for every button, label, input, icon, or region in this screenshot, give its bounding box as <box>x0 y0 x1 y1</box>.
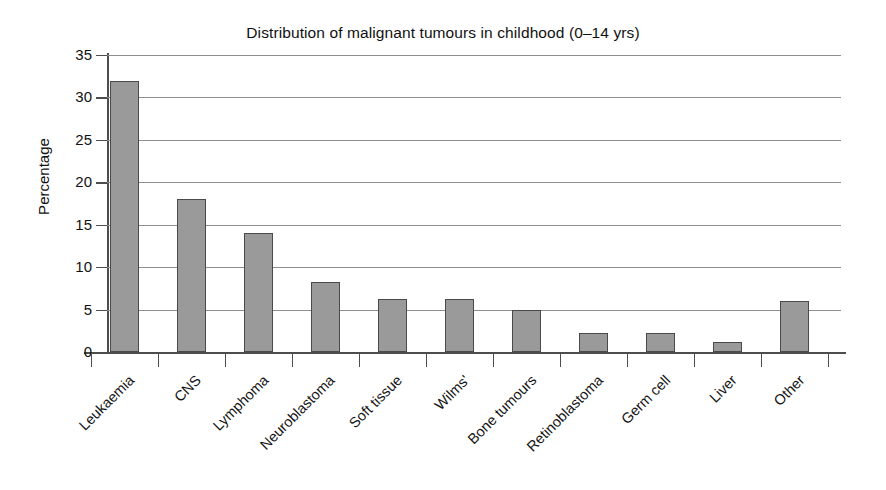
bar[interactable] <box>512 310 541 352</box>
bar[interactable] <box>244 233 273 352</box>
bar[interactable] <box>311 282 340 352</box>
gridline <box>107 140 841 141</box>
y-axis-tick-label: 20 <box>32 174 92 189</box>
gridline <box>107 97 841 98</box>
x-axis-tick-mark <box>560 353 561 367</box>
x-axis-tick-mark <box>828 353 829 367</box>
bar[interactable] <box>177 199 206 352</box>
x-axis-category-label: CNS <box>171 372 204 405</box>
x-axis-tick-mark <box>91 353 92 367</box>
y-axis-tick-label-wrap: 15 <box>26 217 92 233</box>
x-axis-tick-mark <box>761 353 762 367</box>
x-axis-line <box>84 352 846 354</box>
bar[interactable] <box>780 301 809 352</box>
x-axis-tick-mark <box>359 353 360 367</box>
gridline <box>107 55 841 56</box>
y-axis-tick-label-wrap: 5 <box>26 302 92 318</box>
x-axis-category-label: Germ cell <box>618 372 673 427</box>
x-axis-category-label: Liver <box>707 372 741 406</box>
chart-figure: Distribution of malignant tumours in chi… <box>0 0 886 490</box>
y-axis-tick-label-wrap: 25 <box>26 132 92 148</box>
y-axis-tick-label: 30 <box>32 89 92 104</box>
bar[interactable] <box>713 342 742 352</box>
x-axis-tick-mark <box>292 353 293 367</box>
x-axis-tick-mark <box>694 353 695 367</box>
bar[interactable] <box>445 299 474 352</box>
bar[interactable] <box>579 333 608 352</box>
y-axis-tick-label-wrap: 10 <box>26 259 92 275</box>
x-axis-category-label: Soft tissue <box>346 372 405 431</box>
x-axis-tick-mark <box>426 353 427 367</box>
x-axis-tick-mark <box>493 353 494 367</box>
bar[interactable] <box>378 299 407 352</box>
y-axis-tick-label-wrap: 30 <box>26 89 92 105</box>
y-axis-tick-label: 0 <box>32 344 92 359</box>
y-axis-tick-label: 35 <box>32 47 92 62</box>
y-axis-tick-label-wrap: 0 <box>26 344 92 360</box>
bar[interactable] <box>646 333 675 352</box>
gridline <box>107 182 841 183</box>
chart-title: Distribution of malignant tumours in chi… <box>0 24 886 42</box>
x-axis-tick-mark <box>627 353 628 367</box>
y-axis-tick-label: 10 <box>32 259 92 274</box>
y-axis-tick-label-wrap: 35 <box>26 47 92 63</box>
x-axis-category-label: Wilms' <box>431 372 472 413</box>
y-axis-tick-mark <box>96 352 108 353</box>
bar[interactable] <box>110 81 139 353</box>
x-axis-tick-mark <box>158 353 159 367</box>
y-axis-tick-label: 25 <box>32 132 92 147</box>
x-axis-category-label: Bone tumours <box>464 372 539 447</box>
gridline <box>107 310 841 311</box>
plot-area <box>107 55 841 352</box>
y-axis-tick-label: 5 <box>32 302 92 317</box>
x-axis-tick-mark <box>225 353 226 367</box>
x-axis-category-label: Lymphoma <box>209 372 271 434</box>
gridline <box>107 225 841 226</box>
x-axis-category-label: Other <box>770 372 807 409</box>
x-axis-category-label: Leukaemia <box>76 372 137 433</box>
y-axis-tick-label-wrap: 20 <box>26 174 92 190</box>
y-axis-tick-label: 15 <box>32 217 92 232</box>
gridline <box>107 267 841 268</box>
